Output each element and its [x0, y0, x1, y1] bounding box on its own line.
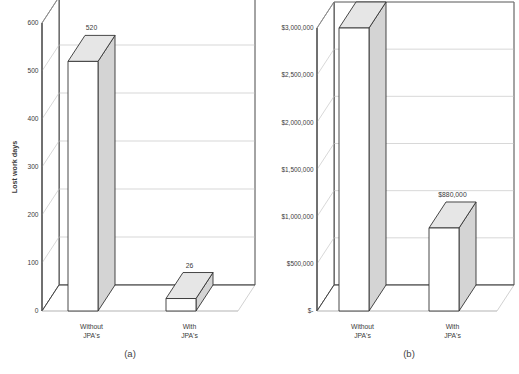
y-axis-tick-label: 300	[27, 163, 38, 170]
y-axis-title: Lost work days	[10, 141, 19, 193]
x-axis-category-label: Without	[351, 323, 374, 330]
y-axis-tick-label: $1,500,000	[282, 166, 314, 173]
plot-area: $-$500,000$1,000,000$1,500,000$2,000,000…	[282, 0, 515, 339]
bar-chart-a: 010020030040050060026WithJPA's520Without…	[0, 0, 260, 374]
bar-front-face	[429, 228, 459, 311]
x-axis-category-label: JPA's	[181, 332, 198, 339]
bar-front-face	[68, 61, 98, 311]
chart-left-wall	[42, 0, 59, 311]
bar-value-label: 520	[86, 24, 98, 31]
y-axis-tick-label: 0	[35, 307, 39, 314]
chart-panel-a: 010020030040050060026WithJPA's520Without…	[0, 0, 260, 374]
x-axis-category-label: With	[183, 323, 197, 330]
bar-value-label: $880,000	[438, 191, 467, 198]
panel-caption: (a)	[124, 348, 136, 359]
bar-3d: $3,000,000WithoutJPA's	[339, 0, 386, 339]
y-axis-tick-label: 200	[27, 211, 38, 218]
y-axis-tick-label: $-	[308, 307, 314, 314]
x-axis-category-label: JPA's	[444, 332, 461, 339]
bar-side-face	[369, 2, 386, 311]
y-axis-tick-label: $3,000,000	[282, 24, 314, 31]
bar-front-face	[339, 28, 369, 311]
bar-value-label: 26	[186, 262, 194, 269]
y-axis-tick-label: 500	[27, 67, 38, 74]
figure-two-bar-charts: 010020030040050060026WithJPA's520Without…	[0, 0, 519, 374]
y-axis-tick-label: 100	[27, 259, 38, 266]
bar-side-face	[98, 35, 115, 311]
y-axis-tick-label: $1,000,000	[282, 213, 314, 220]
plot-area: 010020030040050060026WithJPA's520Without…	[27, 0, 255, 339]
y-axis-tick-label: $2,000,000	[282, 119, 314, 126]
bar-front-face	[166, 299, 196, 311]
x-axis-category-label: JPA's	[83, 332, 100, 339]
bar-3d: 520WithoutJPA's	[68, 24, 115, 338]
y-axis-tick-label: $500,000	[287, 260, 314, 267]
x-axis-category-label: With	[446, 323, 460, 330]
panel-caption: (b)	[403, 348, 415, 359]
x-axis-category-label: JPA's	[354, 332, 371, 339]
x-axis-category-label: Without	[80, 323, 103, 330]
chart-panel-b: $-$500,000$1,000,000$1,500,000$2,000,000…	[259, 0, 519, 374]
y-axis-tick-label: 400	[27, 115, 38, 122]
bar-chart-b: $-$500,000$1,000,000$1,500,000$2,000,000…	[259, 0, 519, 374]
y-axis-tick-label: 600	[27, 19, 38, 26]
y-axis-tick-label: $2,500,000	[282, 71, 314, 78]
